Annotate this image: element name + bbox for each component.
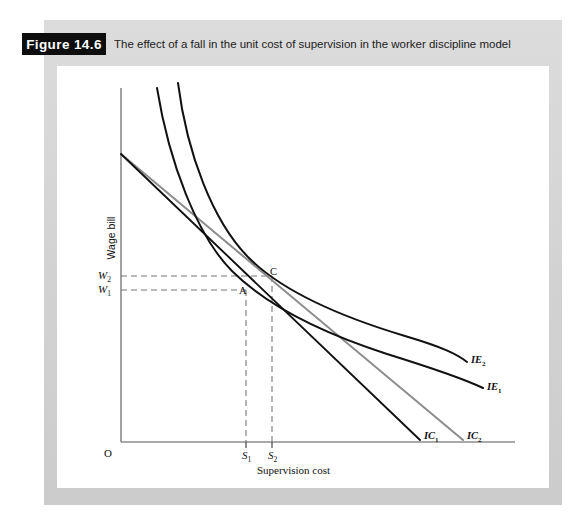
curve-ic1 xyxy=(121,154,420,440)
s2-sub: 2 xyxy=(274,455,278,464)
ic2-base: IC xyxy=(467,430,478,441)
ie2-base: IE xyxy=(471,354,482,365)
w1-sub: 1 xyxy=(107,289,111,298)
ic2-sub: 2 xyxy=(478,436,482,444)
point-label-c: C xyxy=(270,266,277,277)
figure-screenshot: Figure 14.6 The effect of a fall in the … xyxy=(0,0,585,529)
s1-sub: 1 xyxy=(248,455,252,464)
point-label-a: A xyxy=(239,285,247,296)
x-tick-label-s2: S2 xyxy=(268,449,277,464)
curve-ic2 xyxy=(121,154,463,440)
curve-label-ie2: IE2 xyxy=(471,354,486,368)
chart-panel: Wage bill Supervision cost O W2 W1 S1 S2… xyxy=(57,66,549,488)
origin-label: O xyxy=(104,447,112,459)
y-tick-label-w2: W2 xyxy=(98,269,111,284)
ie2-sub: 2 xyxy=(482,360,486,368)
chart-svg xyxy=(57,66,549,488)
ie1-base: IE xyxy=(487,381,498,392)
y-tick-label-w1: W1 xyxy=(98,283,111,298)
ic1-base: IC xyxy=(424,430,435,441)
w1-base: W xyxy=(98,283,107,295)
curve-ie2 xyxy=(178,83,467,362)
curve-ie1 xyxy=(157,88,483,388)
figure-caption: The effect of a fall in the unit cost of… xyxy=(114,35,544,53)
x-tick-label-s1: S1 xyxy=(242,449,251,464)
figure-number-badge: Figure 14.6 xyxy=(22,33,106,55)
curve-label-ie1: IE1 xyxy=(487,381,502,395)
w2-base: W xyxy=(98,269,107,281)
y-axis-label: Wage bill xyxy=(105,208,117,268)
x-axis-label: Supervision cost xyxy=(257,464,330,476)
curve-label-ic1: IC1 xyxy=(424,430,439,444)
curve-label-ic2: IC2 xyxy=(467,430,482,444)
ie1-sub: 1 xyxy=(498,387,502,395)
ic1-sub: 1 xyxy=(435,436,439,444)
